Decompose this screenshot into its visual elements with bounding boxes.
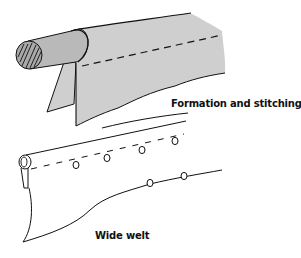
- caption-formation-and-stitching: Formation and stitching: [171, 98, 301, 109]
- welt-loop-tail: [21, 168, 28, 188]
- fabric-flap: [47, 62, 76, 112]
- fabric-panel: [74, 13, 225, 126]
- formation-figure: [16, 13, 225, 128]
- welt-top-edge: [26, 121, 186, 155]
- welt-stitch-line: [31, 134, 184, 169]
- wide-welt-figure: [19, 121, 222, 242]
- rod-end: [16, 41, 42, 69]
- lower-stroke: [102, 113, 188, 128]
- illustration-canvas: Formation and stitching Wide welt: [0, 0, 301, 258]
- welt-left-edge: [23, 188, 31, 242]
- caption-wide-welt: Wide welt: [95, 230, 149, 241]
